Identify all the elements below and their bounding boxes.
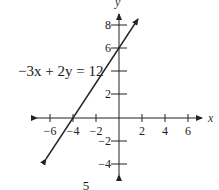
svg-text:8: 8 xyxy=(105,18,111,32)
svg-text:−6: −6 xyxy=(44,124,57,138)
svg-text:−2: −2 xyxy=(98,134,111,148)
svg-text:6: 6 xyxy=(105,41,111,55)
svg-text:−4: −4 xyxy=(98,157,111,171)
x-axis-label: x xyxy=(207,111,214,125)
chart: −6 −4 −2 2 4 6 8 6 2 −2 −4 x y −3x + 2y … xyxy=(0,0,219,190)
svg-text:2: 2 xyxy=(139,124,145,138)
x-tick-labels: −6 −4 −2 2 4 6 xyxy=(44,124,191,138)
y-axis-label: y xyxy=(114,0,121,9)
svg-text:−4: −4 xyxy=(67,124,80,138)
svg-text:4: 4 xyxy=(162,124,168,138)
svg-text:2: 2 xyxy=(105,87,111,101)
page-number: 5 xyxy=(83,178,90,190)
line-series xyxy=(46,19,138,159)
svg-text:6: 6 xyxy=(185,124,191,138)
equation-label: −3x + 2y = 12 xyxy=(18,63,103,79)
y-tick-labels: 8 6 2 −2 −4 xyxy=(98,18,111,171)
